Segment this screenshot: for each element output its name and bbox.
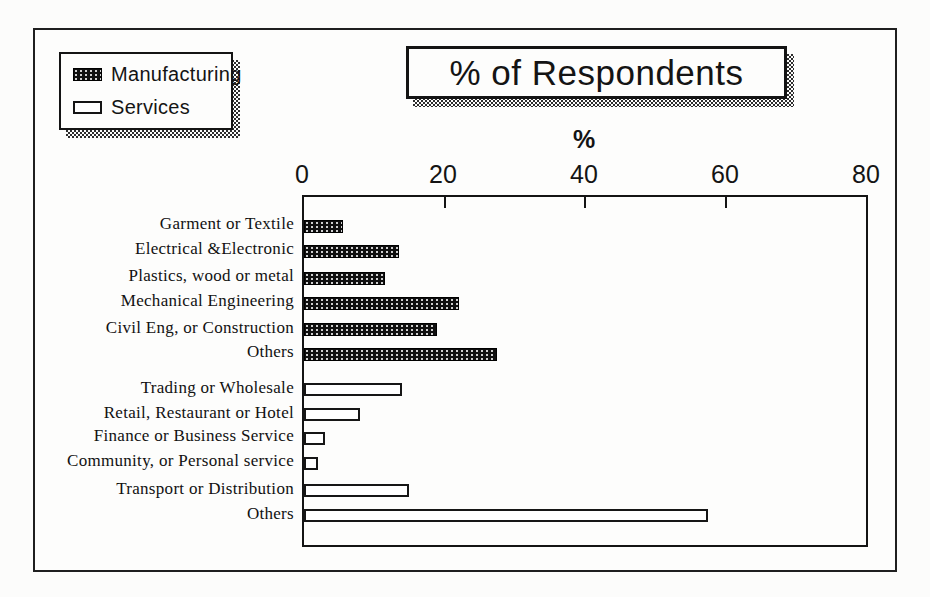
category-label: Retail, Restaurant or Hotel xyxy=(38,403,294,423)
bar-services xyxy=(304,432,325,445)
legend-label-services: Services xyxy=(111,96,190,119)
category-label: Transport or Distribution xyxy=(38,479,294,499)
legend-label-manufacturing: Manufacturing xyxy=(111,63,242,86)
legend-item-services: Services xyxy=(73,96,231,119)
x-tick-mark xyxy=(725,197,727,208)
bar-manufacturing xyxy=(304,220,343,233)
bar-services xyxy=(304,383,402,396)
bar-services xyxy=(304,509,708,522)
category-label: Others xyxy=(38,504,294,524)
services-swatch-icon xyxy=(73,101,102,114)
chart-title: % of Respondents xyxy=(449,53,743,93)
bar-manufacturing xyxy=(304,245,399,258)
plot-area xyxy=(302,195,868,547)
x-tick-label: 60 xyxy=(711,158,739,190)
bar-services xyxy=(304,457,318,470)
category-label: Trading or Wholesale xyxy=(38,378,294,398)
x-tick-label: 80 xyxy=(852,158,880,190)
category-label: Community, or Personal service xyxy=(38,451,294,471)
category-label: Electrical &Electronic xyxy=(38,239,294,259)
category-labels: Garment or TextileElectrical &Electronic… xyxy=(38,195,294,547)
category-label: Mechanical Engineering xyxy=(38,291,294,311)
x-tick-labels: 020406080 xyxy=(302,158,866,190)
bar-services xyxy=(304,484,409,497)
bar-manufacturing xyxy=(304,272,385,285)
legend-item-manufacturing: Manufacturing xyxy=(73,63,231,86)
manufacturing-swatch-icon xyxy=(73,68,102,81)
bar-services xyxy=(304,408,360,421)
category-label: Plastics, wood or metal xyxy=(38,266,294,286)
x-axis-title: % xyxy=(302,124,866,154)
legend: Manufacturing Services xyxy=(59,52,233,130)
bar-manufacturing xyxy=(304,297,459,310)
x-tick-mark xyxy=(584,197,586,208)
category-label: Civil Eng, or Construction xyxy=(38,318,294,338)
chart-title-box: % of Respondents xyxy=(406,46,787,99)
bar-manufacturing xyxy=(304,323,437,336)
x-tick-label: 0 xyxy=(295,158,309,190)
figure-canvas: Manufacturing Services % of Respondents … xyxy=(0,0,930,597)
x-tick-label: 40 xyxy=(570,158,598,190)
x-tick-mark xyxy=(444,197,446,208)
category-label: Finance or Business Service xyxy=(38,426,294,446)
category-label: Others xyxy=(38,342,294,362)
x-tick-label: 20 xyxy=(429,158,457,190)
bar-manufacturing xyxy=(304,348,497,361)
category-label: Garment or Textile xyxy=(38,214,294,234)
